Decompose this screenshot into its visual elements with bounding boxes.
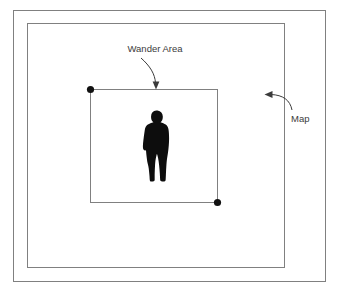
wander-area-bottom-right-handle[interactable] bbox=[214, 199, 221, 206]
wander-area-top-left-handle[interactable] bbox=[87, 86, 94, 93]
map-label: Map bbox=[291, 113, 309, 124]
diagram-canvas: Wander Area Map bbox=[0, 0, 341, 290]
diagram-illustration: Wander Area Map bbox=[0, 0, 341, 290]
wander-area-label: Wander Area bbox=[127, 43, 183, 54]
